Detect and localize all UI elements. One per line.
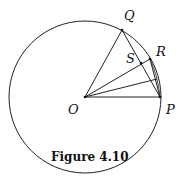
- point-P: [159, 96, 162, 99]
- point-O: [84, 96, 87, 99]
- point-R: [149, 58, 152, 61]
- figure-caption: Figure 4.10: [51, 150, 129, 164]
- figure-4-10-diagram: O P Q R S Figure 4.10: [0, 0, 186, 181]
- segment-OR: [85, 59, 150, 97]
- label-S: S: [126, 51, 135, 66]
- label-R: R: [155, 44, 166, 59]
- segment-OQ: [85, 30, 122, 97]
- label-O: O: [68, 102, 79, 117]
- label-P: P: [165, 102, 175, 117]
- label-Q: Q: [124, 8, 135, 23]
- segment-OT: [85, 79, 157, 97]
- point-S: [140, 62, 143, 65]
- point-Q: [121, 29, 124, 32]
